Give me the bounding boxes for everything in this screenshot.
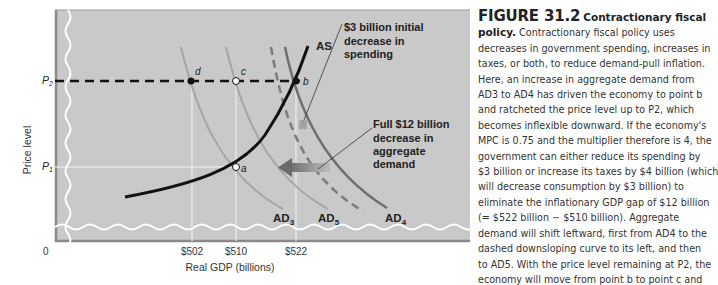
svg-text:Full $12 billion: Full $12 billion [373,118,450,130]
label-d: d [195,66,201,77]
chart: d c b a AS AD3 AD5 AD4 $3 billion initia… [0,0,470,285]
svg-text:decrease in: decrease in [373,132,434,144]
p1-label: P1 [42,160,53,173]
x-axis-title: Real GDP (billions) [185,261,274,273]
label-b: b [303,76,309,87]
point-a [233,164,240,171]
y-axis-title: Price level [21,126,33,174]
figure-caption: FIGURE 31.2 Contractionary fiscal policy… [478,9,678,285]
svg-text:demand: demand [373,158,415,170]
x-tick-522: $522 [285,246,308,257]
point-d [188,78,195,85]
x-tick-502: $502 [181,246,204,257]
figure-title: Contractionary fiscal [583,11,706,23]
x-tick-0: 0 [43,246,49,257]
point-b [293,78,300,85]
label-c: c [241,66,246,77]
figure-number: FIGURE 31.2 [478,7,580,25]
label-a: a [241,163,247,174]
svg-text:decrease in: decrease in [344,35,405,47]
svg-text:aggregate: aggregate [373,145,426,157]
svg-text:spending: spending [344,48,393,60]
as-label: AS [316,40,332,52]
p2-label: P2 [42,74,53,87]
svg-text:$3 billion initial: $3 billion initial [344,21,423,33]
x-tick-510: $510 [225,246,248,257]
point-c [233,78,240,85]
